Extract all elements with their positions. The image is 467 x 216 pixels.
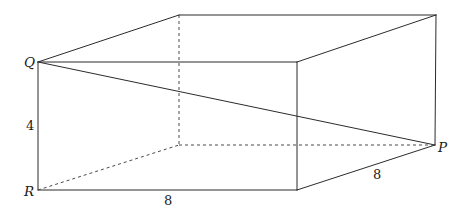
hidden-edges-group bbox=[38, 15, 435, 190]
edge-bottom-right-receding bbox=[297, 145, 435, 190]
vertex-label-r: R bbox=[24, 185, 34, 199]
vertex-label-p: P bbox=[438, 141, 447, 155]
measure-label-height: 4 bbox=[26, 119, 34, 132]
vertex-label-q: Q bbox=[24, 56, 35, 70]
edge-back-right-vertical bbox=[435, 15, 436, 145]
measure-label-bottom-depth: 8 bbox=[164, 194, 172, 207]
geometry-figure: Q R P 4 8 8 bbox=[0, 0, 467, 216]
box-diagram-svg bbox=[0, 0, 467, 216]
edge-top-left-receding bbox=[38, 15, 179, 62]
solid-edges-group bbox=[38, 15, 436, 190]
measure-label-right-depth: 8 bbox=[373, 168, 381, 181]
hidden-edge-bottom-left-receding bbox=[38, 145, 179, 190]
edge-top-right-receding bbox=[297, 15, 436, 62]
diagonal-QP bbox=[38, 62, 435, 145]
